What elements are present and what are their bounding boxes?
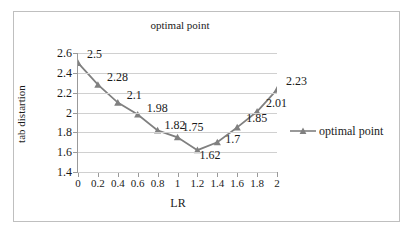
y-axis-tick-labels: 2.62.42.221.81.61.4 [28,0,72,241]
gridline [78,132,277,133]
data-point-label: 1.75 [183,121,204,133]
gridline [78,53,277,54]
x-axis-title: LR [78,196,278,210]
legend-marker-icon [290,125,316,137]
data-point-label: 2.28 [107,71,128,83]
y-axis-tick-mark [73,53,77,54]
data-point-label: 2.23 [286,75,307,87]
data-point-label: 2.1 [127,89,142,101]
y-axis-title: tab distartion [15,64,27,164]
y-axis-tick-label: 1.8 [32,126,72,138]
chart-title: optimal point [80,19,280,32]
y-axis-tick-mark [73,73,77,74]
data-point-label: 1.85 [246,112,267,124]
y-axis-tick-label: 1.6 [32,146,72,158]
y-axis-tick-label: 2.4 [32,67,72,79]
data-point-label: 2.01 [266,97,287,109]
y-axis-tick-mark [73,132,77,133]
y-axis-tick-mark [73,152,77,153]
data-point-label: 1.62 [199,149,220,161]
y-axis-tick-mark [73,172,77,173]
y-axis-tick-mark [73,113,77,114]
data-point-label: 2.5 [87,48,102,60]
gridline [78,152,277,153]
y-axis-tick-label: 2.2 [32,87,72,99]
data-point-label: 1.7 [225,133,240,145]
y-axis-tick-label: 2 [32,107,72,119]
chart-figure: optimal point tab distartion LR 2.62.42.… [0,0,415,241]
data-point-label: 1.98 [147,102,168,114]
gridline [78,93,277,94]
x-axis-tick-label: 2 [257,177,297,190]
y-axis-tick-mark [73,93,77,94]
y-axis-tick-label: 2.6 [32,47,72,59]
chart-legend: optimal point [290,124,383,138]
legend-label-optimal-point: optimal point [319,124,383,138]
